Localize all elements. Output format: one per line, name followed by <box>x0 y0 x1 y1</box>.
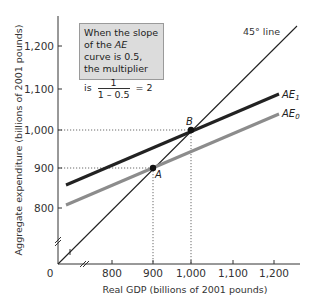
origin-label: 0 <box>47 267 54 279</box>
y-tick-800: 800 <box>34 202 54 214</box>
x-tick-1200: 1,200 <box>259 267 289 279</box>
ae1-label: AE1 <box>281 89 300 102</box>
x-tick-1000: 1,000 <box>176 267 206 279</box>
x-ticks: 0 800 900 1,000 1,100 1,200 <box>47 260 289 279</box>
y-tick-1100: 1,100 <box>24 83 54 95</box>
ae0-label: AE0 <box>281 108 300 121</box>
y-axis-title: Aggregate expenditure (billions of 2001 … <box>13 25 24 256</box>
x-tick-900: 900 <box>143 267 163 279</box>
multiplier-annotation: When the slope of the AE curve is 0.5, t… <box>79 23 164 80</box>
y-tick-900: 900 <box>34 162 54 174</box>
multiplier-fraction: 1 1 – 0.5 <box>98 77 130 100</box>
x-tick-800: 800 <box>102 267 122 279</box>
point-a-label: A <box>154 169 162 180</box>
ae0-line <box>66 114 279 205</box>
point-b <box>188 127 194 133</box>
point-b-label: B <box>186 116 193 127</box>
ae1-line <box>66 94 279 185</box>
x-axis-title: Real GDP (billions of 2001 pounds) <box>103 284 268 295</box>
line-45-label: 45° line <box>243 26 280 37</box>
x-tick-1100: 1,100 <box>218 267 248 279</box>
y-tick-1200: 1,200 <box>24 40 54 52</box>
y-ticks: 1,200 1,100 1,000 900 800 <box>24 40 62 214</box>
y-tick-1000: 1,000 <box>24 124 54 136</box>
